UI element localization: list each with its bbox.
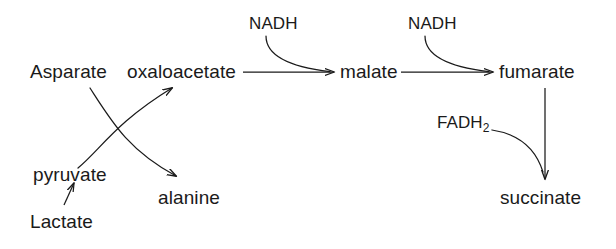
- node-asparate: Asparate: [30, 62, 107, 81]
- pathway-diagram: Asparate oxaloacetate malate fumarate py…: [0, 0, 616, 249]
- curve-pyruvate-to-oxaloacetate: [78, 88, 172, 168]
- curve-asparate-to-alanine: [90, 88, 176, 176]
- node-oxaloacetate: oxaloacetate: [127, 62, 236, 81]
- cofactor-nadh-2: NADH: [408, 15, 457, 32]
- cofactor-fadh2: FADH2: [437, 114, 490, 131]
- arrow-lactate-to-pyruvate: [64, 183, 74, 205]
- curve-nadh-2-to-fumarate: [425, 36, 489, 72]
- node-malate: malate: [340, 62, 398, 81]
- cofactor-fadh2-subscript: 2: [483, 121, 490, 135]
- node-succinate: succinate: [500, 188, 581, 207]
- cofactor-fadh2-base: FADH: [437, 113, 483, 132]
- node-alanine: alanine: [158, 188, 220, 207]
- node-lactate: Lactate: [30, 212, 93, 231]
- curve-fadh2-to-succinate: [492, 130, 543, 172]
- curve-nadh-1-to-malate: [266, 36, 330, 72]
- node-pyruvate: pyruvate: [33, 165, 107, 184]
- cofactor-nadh-1: NADH: [249, 15, 298, 32]
- node-fumarate: fumarate: [499, 62, 575, 81]
